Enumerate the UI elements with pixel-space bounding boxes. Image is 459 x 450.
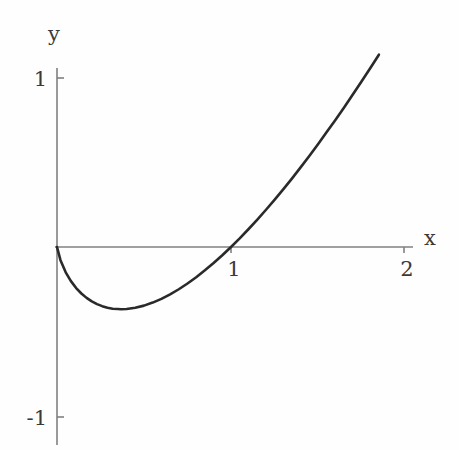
figure-background bbox=[0, 0, 459, 450]
x-tick-label-2: 2 bbox=[400, 257, 413, 281]
chart-figure: 1 -1 1 2 y x bbox=[0, 0, 459, 450]
plot-canvas: 1 -1 1 2 y x bbox=[0, 0, 459, 450]
x-axis-label: x bbox=[424, 226, 436, 250]
y-tick-label-1: 1 bbox=[34, 67, 47, 91]
y-tick-label-minus1: -1 bbox=[27, 406, 47, 430]
x-tick-label-1: 1 bbox=[227, 257, 240, 281]
y-axis-label: y bbox=[47, 22, 60, 46]
